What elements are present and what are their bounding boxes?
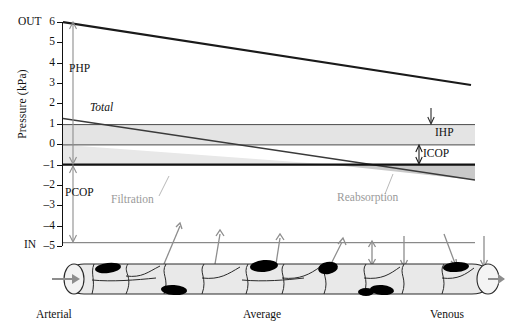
y-tick-mark bbox=[57, 205, 62, 206]
y-tick-mark bbox=[57, 103, 62, 104]
capillary-illustration bbox=[52, 220, 505, 310]
y-tick-label: –1 bbox=[33, 159, 55, 171]
y-tick-mark bbox=[57, 124, 62, 125]
ihp-measure-arrow bbox=[428, 108, 434, 124]
reabsorption-region bbox=[330, 165, 475, 180]
y-tick-label: 6 bbox=[33, 16, 55, 28]
vessel-label-average: Average bbox=[243, 308, 281, 320]
vessel-label-venous: Venous bbox=[430, 308, 464, 320]
reabsorption-label: Reabsorption bbox=[337, 191, 398, 203]
y-tick-label: 4 bbox=[33, 57, 55, 69]
y-tick-label: 3 bbox=[33, 77, 55, 89]
y-tick-mark bbox=[57, 22, 62, 23]
filtration-arrows bbox=[164, 223, 346, 266]
y-tick-label: 0 bbox=[33, 138, 55, 150]
plot-area: Total PHP PCOP IHP ICOP Filtration Reabs… bbox=[63, 16, 475, 252]
pcop-label: PCOP bbox=[65, 186, 94, 198]
filtration-region bbox=[63, 145, 330, 165]
total-label: Total bbox=[90, 101, 113, 113]
y-tick-label: –3 bbox=[33, 199, 55, 211]
y-tick-mark bbox=[57, 144, 62, 145]
equilibrium-arrow bbox=[369, 241, 376, 265]
y-tick-mark bbox=[57, 185, 62, 186]
vessel-label-arterial: Arterial bbox=[36, 308, 72, 320]
filtration-leader bbox=[159, 176, 169, 196]
pressure-curves-svg bbox=[63, 16, 475, 252]
reabsorption-arrows bbox=[401, 234, 488, 267]
y-tick-label: 5 bbox=[33, 36, 55, 48]
y-tick-mark bbox=[57, 165, 62, 166]
filtration-label: Filtration bbox=[111, 193, 154, 205]
y-tick-label: 2 bbox=[33, 97, 55, 109]
y-axis-title: Pressure (kPa) bbox=[16, 34, 28, 174]
php-curve bbox=[63, 22, 471, 85]
y-tick-mark bbox=[57, 42, 62, 43]
ihp-label: IHP bbox=[435, 126, 454, 138]
y-tick-label: –2 bbox=[33, 179, 55, 191]
php-label: PHP bbox=[69, 62, 90, 74]
icop-measure-arrow bbox=[416, 145, 422, 164]
y-tick-mark bbox=[57, 83, 62, 84]
figure-root: Pressure (kPa) OUT IN 6543210–1–2–3–4–5 bbox=[0, 0, 505, 330]
capillary-body bbox=[70, 264, 490, 294]
y-tick-label: 1 bbox=[33, 118, 55, 130]
y-tick-mark bbox=[57, 63, 62, 64]
icop-label: ICOP bbox=[423, 147, 449, 159]
